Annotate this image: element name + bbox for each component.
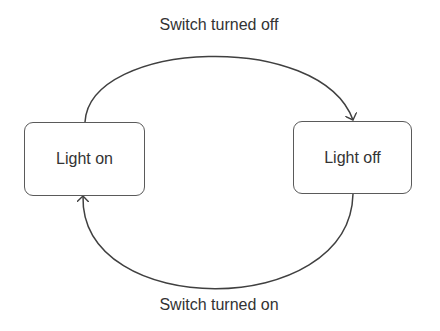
state-light-off: Light off xyxy=(293,121,412,194)
transition-label-switch-on: Switch turned on xyxy=(119,296,319,314)
state-light-on: Light on xyxy=(24,122,145,196)
state-light-off-label: Light off xyxy=(324,149,381,167)
arrow-switch-on xyxy=(83,194,353,289)
state-light-on-label: Light on xyxy=(56,150,113,168)
arrow-switch-off xyxy=(85,56,353,122)
transition-label-switch-off: Switch turned off xyxy=(119,16,319,34)
